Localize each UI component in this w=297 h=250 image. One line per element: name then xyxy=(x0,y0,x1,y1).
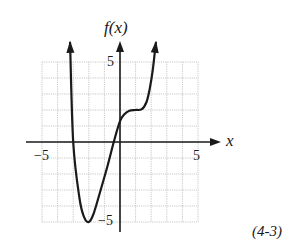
x-tick-max-label: 5 xyxy=(193,148,200,164)
y-axis-label: f(x) xyxy=(104,18,128,38)
y-tick-min-label: −5 xyxy=(98,213,113,229)
y-axis-arrow-icon xyxy=(116,41,124,52)
function-graph xyxy=(0,0,297,250)
y-tick-max-label: 5 xyxy=(107,54,114,70)
x-axis-arrow-icon xyxy=(210,138,221,146)
curve-right-arrow-icon xyxy=(151,41,159,53)
x-axis-label: x xyxy=(226,131,234,151)
figure-tag: (4-3) xyxy=(252,223,282,240)
x-tick-min-label: −5 xyxy=(34,148,49,164)
curve-left-arrow-icon xyxy=(66,41,74,53)
